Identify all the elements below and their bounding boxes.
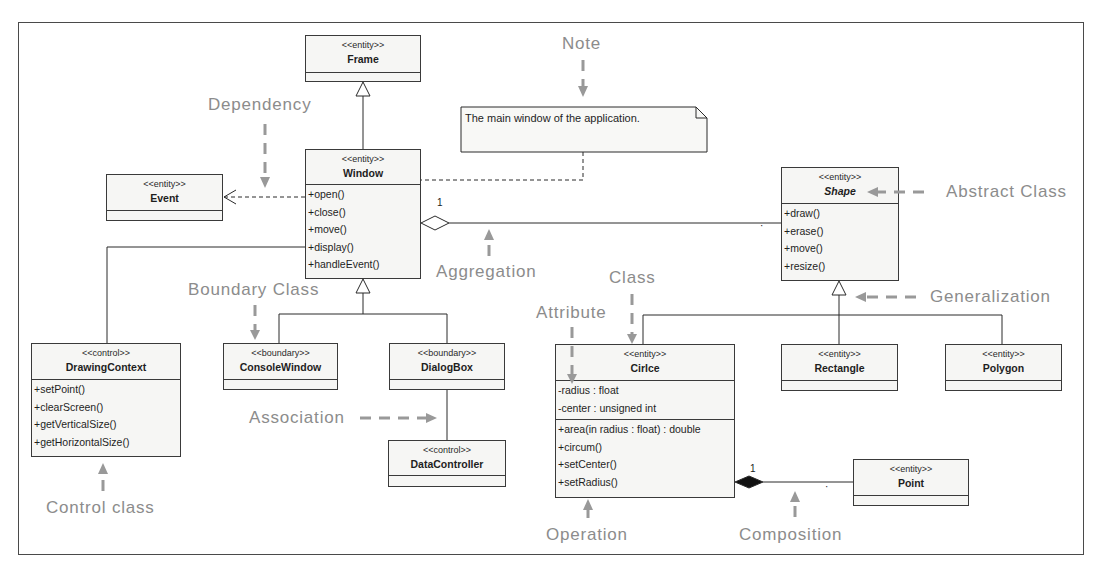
operation: +open(): [308, 186, 418, 204]
class-name: Frame: [306, 51, 420, 68]
class-console-window[interactable]: <<boundary>> ConsoleWindow: [223, 343, 338, 390]
generalization-arrowhead-icon: [832, 281, 846, 295]
stereotype: <<boundary>>: [390, 344, 504, 359]
operations-section: [107, 211, 222, 220]
annotation-attribute: Attribute: [536, 303, 607, 323]
operations-section: [854, 496, 968, 505]
operation: +circum(): [558, 439, 732, 457]
multiplicity-label: ·: [825, 481, 828, 492]
annotation-dependency: Dependency: [208, 95, 311, 115]
operations-section: +draw() +erase() +move() +resize(): [782, 204, 898, 280]
class-name: Event: [107, 190, 222, 207]
stereotype: <<entity>>: [306, 36, 420, 51]
class-name: DialogBox: [390, 359, 504, 376]
operation: +move(): [784, 240, 896, 258]
stereotype: <<entity>>: [107, 175, 222, 190]
operation: +erase(): [784, 223, 896, 241]
operations-section: +area(in radius : float) : double +circu…: [556, 420, 734, 497]
operations-section: [946, 381, 1061, 390]
multiplicity-label: 1: [750, 463, 756, 474]
multiplicity-label: ·: [760, 220, 763, 231]
operation: +getVerticalSize(): [34, 416, 178, 434]
class-rectangle[interactable]: <<entity>> Rectangle: [781, 344, 898, 391]
operation: +close(): [308, 204, 418, 222]
stereotype: <<entity>>: [854, 460, 968, 475]
operation: +setCenter(): [558, 456, 732, 474]
uml-class-diagram: The main window of the application. 1 · …: [0, 0, 1095, 564]
operations-section: [390, 380, 504, 389]
class-name: Window: [306, 165, 420, 182]
operations-section: [389, 476, 505, 486]
operation: +area(in radius : float) : double: [558, 421, 732, 439]
multiplicity-label: 1: [437, 197, 443, 208]
class-dialog-box[interactable]: <<boundary>> DialogBox: [389, 343, 505, 390]
note-text: The main window of the application.: [465, 111, 640, 125]
operation: +setRadius(): [558, 474, 732, 492]
annotation-composition: Composition: [739, 525, 842, 545]
attribute: -center : unsigned int: [558, 400, 732, 418]
class-name: Cirlce: [556, 360, 734, 377]
stereotype: <<entity>>: [556, 345, 734, 360]
class-drawing-context[interactable]: <<control>> DrawingContext +setPoint() +…: [31, 343, 181, 457]
operation: +handleEvent(): [308, 256, 418, 274]
class-window[interactable]: <<entity>> Window +open() +close() +move…: [305, 149, 421, 279]
annotation-boundary-class: Boundary Class: [188, 280, 319, 300]
stereotype: <<entity>>: [782, 345, 897, 360]
class-point[interactable]: <<entity>> Point: [853, 459, 969, 506]
stereotype: <<control>>: [32, 344, 180, 359]
annotation-abstract-class: Abstract Class: [946, 182, 1067, 202]
note-anchor-line: [421, 152, 583, 180]
annotation-note: Note: [562, 34, 601, 54]
annotation-class: Class: [609, 268, 656, 288]
class-name: DataController: [389, 456, 505, 473]
stereotype: <<control>>: [389, 441, 505, 456]
class-name: Polygon: [946, 360, 1061, 377]
class-name: Point: [854, 475, 968, 492]
operations-section: +open() +close() +move() +display() +han…: [306, 185, 420, 278]
class-name: Shape: [782, 183, 898, 200]
operation: +setPoint(): [34, 381, 178, 399]
stereotype: <<entity>>: [946, 345, 1061, 360]
class-circle[interactable]: <<entity>> Cirlce -radius : float -cente…: [555, 344, 735, 498]
class-name: DrawingContext: [32, 359, 180, 376]
composition-diamond-icon: [735, 476, 763, 488]
operations-section: [306, 73, 420, 81]
operation: +display(): [308, 239, 418, 257]
annotation-generalization: Generalization: [930, 287, 1051, 307]
attributes-section: -radius : float -center : unsigned int: [556, 381, 734, 420]
stereotype: <<entity>>: [782, 168, 898, 183]
operations-section: [782, 381, 897, 390]
annotation-aggregation: Aggregation: [436, 262, 536, 282]
class-name: ConsoleWindow: [224, 359, 337, 376]
aggregation-diamond-icon: [421, 216, 449, 230]
class-data-controller[interactable]: <<control>> DataController: [388, 440, 506, 487]
operation: +clearScreen(): [34, 399, 178, 417]
generalization-arrowhead-icon: [356, 82, 370, 96]
stereotype: <<boundary>>: [224, 344, 337, 359]
attribute: -radius : float: [558, 382, 732, 400]
operations-section: [224, 380, 337, 389]
annotation-association: Association: [249, 408, 345, 428]
operation: +draw(): [784, 205, 896, 223]
class-name: Rectangle: [782, 360, 897, 377]
operation: +move(): [308, 221, 418, 239]
class-frame[interactable]: <<entity>> Frame: [305, 35, 421, 82]
operation: +resize(): [784, 258, 896, 276]
class-shape[interactable]: <<entity>> Shape +draw() +erase() +move(…: [781, 167, 899, 281]
class-event[interactable]: <<entity>> Event: [106, 174, 223, 221]
annotation-control-class: Control class: [46, 498, 155, 518]
annotation-operation: Operation: [546, 525, 628, 545]
stereotype: <<entity>>: [306, 150, 420, 165]
operations-section: +setPoint() +clearScreen() +getVerticalS…: [32, 380, 180, 456]
operation: +getHorizontalSize(): [34, 434, 178, 452]
class-polygon[interactable]: <<entity>> Polygon: [945, 344, 1062, 391]
generalization-arrowhead-icon: [356, 279, 370, 293]
